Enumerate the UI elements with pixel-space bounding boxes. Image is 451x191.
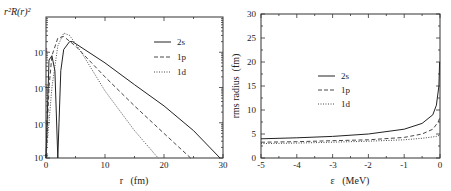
right-xtick-m5: -5 [257, 160, 265, 170]
legend-2s-rms: 2s [341, 71, 350, 81]
legend-1p: 1p [177, 52, 187, 62]
right-y-ticks [261, 14, 440, 158]
left-xtick-0: 0 [44, 160, 49, 170]
curve-1d [46, 33, 158, 158]
curve-2s-rms [261, 62, 440, 139]
right-ytick-30: 30 [247, 9, 257, 19]
right-plot-frame [261, 14, 440, 158]
right-xtick-m1: -1 [400, 160, 408, 170]
curve-2s [46, 42, 220, 158]
curve-1p [46, 37, 191, 159]
left-xtick-20: 20 [160, 160, 170, 170]
right-ytick-15: 15 [247, 81, 257, 91]
left-xtick-30: 30 [219, 160, 229, 170]
left-plot-frame [46, 17, 223, 158]
legend-1d-rms: 1d [341, 99, 351, 109]
left-curves [46, 33, 220, 158]
right-plot: -5 -4 -3 -2 -1 0 0 5 10 15 20 25 30 rms … [230, 9, 443, 187]
right-curves [261, 62, 440, 144]
legend-2s: 2s [177, 37, 186, 47]
legend-1p-rms: 1p [341, 85, 351, 95]
right-x-ticks [261, 14, 440, 158]
right-xtick-m4: -4 [293, 160, 301, 170]
left-x-ticks [46, 17, 223, 158]
right-ytick-10: 10 [247, 105, 257, 115]
right-ytick-5: 5 [252, 129, 257, 139]
right-xtick-m3: -3 [329, 160, 337, 170]
left-ylabel: r²R(r)² [4, 6, 32, 18]
right-xlabel: ε (MeV) [331, 175, 370, 187]
right-ylabel: rms radius (fm) [230, 54, 242, 119]
left-xlabel: r (fm) [120, 175, 149, 187]
right-ytick-25: 25 [247, 33, 257, 43]
right-ytick-0: 0 [252, 153, 257, 163]
left-xtick-10: 10 [101, 160, 111, 170]
left-legend: 2s 1p 1d [154, 37, 187, 77]
curve-1d-rms [261, 135, 440, 144]
legend-1d: 1d [177, 67, 187, 77]
right-legend: 2s 1p 1d [318, 71, 351, 109]
right-ytick-20: 20 [247, 57, 257, 67]
left-plot: 0 10 20 30 10-1 10-2 10-3 10-4 r²R(r)² r… [4, 6, 228, 187]
right-xtick-0: 0 [438, 160, 443, 170]
right-xtick-m2: -2 [364, 160, 372, 170]
figure: 0 10 20 30 10-1 10-2 10-3 10-4 r²R(r)² r… [0, 0, 451, 191]
